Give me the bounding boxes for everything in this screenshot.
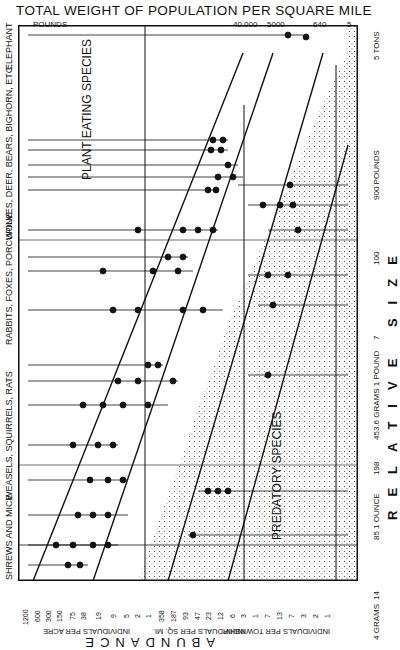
right-axis-label: RELATIVE SIZE [385, 242, 400, 520]
bottom-tick: 7 [264, 614, 271, 618]
bottom-axis-label: ABUNDANCE [79, 635, 215, 650]
bottom-tick: 12 [217, 612, 224, 620]
size-class-wolves: WOLVES, DEER, BEARS, BIGHORN, ETC. [4, 64, 14, 240]
bottom-tick: 2 [312, 614, 319, 618]
bottom-tick: 2 [134, 614, 141, 618]
bottom-tick: 13 [276, 612, 283, 620]
bottom-tick: 6 [229, 614, 236, 618]
right-tick-900-pounds: 900 POUNDS [372, 150, 381, 200]
bottom-tick: 5 [123, 614, 130, 618]
group-plant-eating: PLANT EATING SPECIES [80, 39, 94, 180]
bottom-tick: 358 [158, 610, 165, 622]
right-tick-1-ounce: 85 1 OUNCE [372, 493, 381, 540]
bottom-tick: 47 [194, 612, 201, 620]
bottom-tick: 7 [288, 614, 295, 618]
size-class-elephant: ELEPHANT [4, 22, 14, 70]
bottom-tick: 93 [182, 612, 189, 620]
bottom-label-per-township: INDIVIDUALS PER TOWNSHIP [223, 627, 330, 636]
bottom-tick: 187 [170, 610, 177, 622]
right-tick-5-tons: 5 TONS [372, 31, 381, 60]
right-tick-100: 100 [372, 252, 381, 265]
bottom-tick: 600 [34, 610, 41, 622]
bottom-tick: 1 [324, 614, 331, 618]
bottom-tick: 1 [252, 614, 259, 618]
bottom-tick: 150 [56, 610, 63, 622]
right-tick-198: 198 [372, 462, 381, 475]
right-tick-1-pound: 453.6 GRAMS 1 POUND [372, 351, 381, 440]
group-predatory: PREDATORY SPECIES [270, 412, 284, 541]
bottom-tick: 9 [110, 614, 117, 618]
bottom-tick: 75 [69, 612, 76, 620]
bottom-tick: 1200 [22, 609, 29, 625]
bottom-tick: 3 [240, 614, 247, 618]
right-tick-4-grams: 4 GRAMS [372, 604, 381, 640]
bottom-tick: 1 [145, 614, 152, 618]
bottom-tick: 3 [300, 614, 307, 618]
right-tick-7: 7 [372, 336, 381, 340]
bottom-tick: 23 [205, 612, 212, 620]
right-tick-14: 14 [372, 591, 381, 600]
size-class-shrews: SHREWS AND MICE [4, 494, 14, 580]
plot-area [18, 25, 358, 581]
bottom-tick: 300 [45, 610, 52, 622]
bottom-tick: 19 [95, 612, 102, 620]
chart-title: TOTAL WEIGHT OF POPULATION PER SQUARE MI… [16, 3, 372, 18]
size-class-weasels: WEASELS, SQUIRRELS, RATS [4, 371, 14, 500]
bottom-tick: 38 [80, 612, 87, 620]
